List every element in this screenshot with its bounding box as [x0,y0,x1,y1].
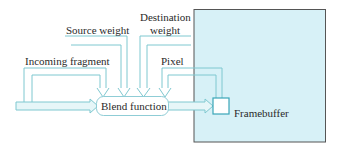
framebuffer-rect [194,10,326,143]
pixel-label: Pixel [161,55,184,67]
arrowhead-icon [159,88,171,97]
framebuffer-label: Framebuffer [234,107,289,119]
destination-weight-label-line2: weight [150,24,180,36]
source-weight-label: Source weight [66,24,129,36]
arrowhead-icon [97,88,109,97]
incoming-fragment-label: Incoming fragment [25,55,110,67]
output-arrow [168,99,213,113]
pixel-box [213,98,229,114]
destination-weight-label-line1: Destination [140,11,191,23]
blend-function-label: Blend function [101,100,167,112]
arrowhead-icon [137,88,150,97]
arrowhead-icon [118,88,130,97]
arrow-heads [97,88,171,97]
input-arrow [16,99,98,113]
incoming-fragment-arrow [24,68,106,102]
